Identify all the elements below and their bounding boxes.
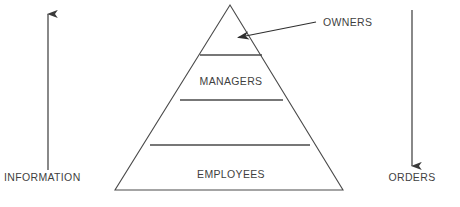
pyramid-dividers — [150, 55, 310, 145]
information-label: INFORMATION — [4, 172, 81, 183]
pyramid-triangle — [115, 5, 343, 190]
owners-label: OWNERS — [323, 17, 372, 28]
owners-callout-leader — [238, 22, 316, 38]
owners-leader-line — [238, 22, 316, 38]
managers-label: MANAGERS — [200, 76, 263, 87]
orders-label: ORDERS — [388, 172, 435, 183]
pyramid-outline — [115, 5, 343, 190]
diagram-canvas: OWNERS MANAGERS EMPLOYEES INFORMATION OR… — [0, 0, 460, 207]
employees-label: EMPLOYEES — [197, 169, 265, 180]
